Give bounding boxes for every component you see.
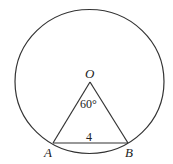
label-angle: 60° (80, 97, 97, 111)
label-point-b: B (125, 145, 133, 160)
radius-oa (53, 82, 90, 143)
diagram-canvas: O 60° 4 A B (0, 0, 173, 164)
label-center-o: O (85, 66, 95, 81)
label-point-a: A (43, 145, 52, 160)
label-chord-length: 4 (86, 130, 92, 144)
radius-ob (90, 82, 128, 143)
circle-diagram: O 60° 4 A B (0, 0, 173, 164)
